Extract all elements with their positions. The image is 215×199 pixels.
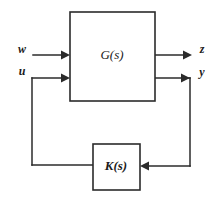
arrow-w-into-plant-icon <box>61 51 70 60</box>
block-controller: K(s) <box>93 144 140 190</box>
block-plant: G(s) <box>70 12 155 101</box>
arrow-y-into-controller-icon <box>140 162 149 171</box>
block-controller-label: K(s) <box>104 158 127 173</box>
signal-label-u: u <box>19 64 26 78</box>
arrow-plant-to-y-icon <box>181 74 190 83</box>
arrow-plant-to-z-icon <box>183 51 192 60</box>
signal-label-w: w <box>18 42 27 56</box>
signal-label-y: y <box>197 65 205 79</box>
signal-label-z: z <box>199 42 205 56</box>
block-diagram-svg: G(s) K(s) w u z y <box>0 0 215 199</box>
block-plant-label: G(s) <box>100 47 123 62</box>
block-diagram-canvas: G(s) K(s) w u z y <box>0 0 215 199</box>
arrow-u-into-plant-icon <box>61 74 70 83</box>
